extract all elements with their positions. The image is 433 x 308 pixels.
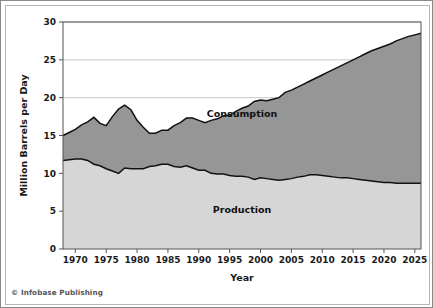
- series-label-production: Production: [213, 204, 272, 215]
- x-axis-tick-label: 2005: [279, 255, 304, 265]
- figure-container: 0510152025301970197519801985199019952000…: [0, 0, 433, 308]
- x-axis-tick-label: 2025: [402, 255, 427, 265]
- x-axis-tick-label: 2015: [341, 255, 366, 265]
- y-axis-tick-label: 20: [43, 93, 56, 103]
- y-axis-tick-label: 25: [43, 55, 56, 65]
- series-label-consumption: Consumption: [207, 108, 278, 119]
- x-axis-tick-label: 1990: [186, 255, 211, 265]
- x-axis-tick-label: 1970: [63, 255, 88, 265]
- y-axis-tick-label: 0: [50, 244, 56, 254]
- x-axis-tick-label: 2020: [371, 255, 396, 265]
- y-axis-tick-label: 5: [50, 206, 56, 216]
- x-axis-tick-label: 1985: [155, 255, 180, 265]
- copyright-credit: © Infobase Publishing: [11, 288, 103, 297]
- x-axis-title: Year: [229, 272, 254, 283]
- x-axis-tick-label: 1980: [125, 255, 150, 265]
- x-axis-tick-label: 2010: [310, 255, 335, 265]
- area-chart: 0510152025301970197519801985199019952000…: [1, 1, 433, 308]
- x-axis-tick-label: 2000: [248, 255, 273, 265]
- y-axis-tick-label: 30: [43, 17, 56, 27]
- x-axis-tick-label: 1975: [94, 255, 119, 265]
- y-axis-title: Million Barrels per Day: [18, 74, 29, 197]
- x-axis-tick-label: 1995: [217, 255, 242, 265]
- y-axis-tick-label: 10: [43, 169, 56, 179]
- y-axis-tick-label: 15: [43, 131, 56, 141]
